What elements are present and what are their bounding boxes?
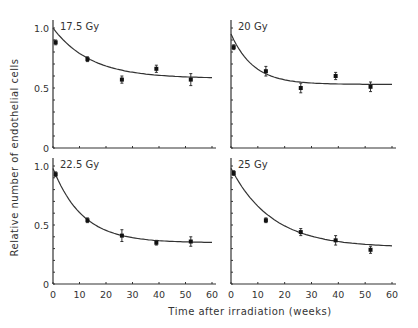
fit-curve	[53, 28, 212, 78]
panel-dose-label: 22.5 Gy	[60, 159, 99, 170]
data-point	[334, 74, 338, 78]
x-tick-label: 10	[73, 289, 85, 300]
panel-22-5-gy: 010203040506000.51.022.5 Gy	[34, 158, 218, 300]
x-tick-label: 60	[386, 289, 398, 300]
data-point	[369, 248, 373, 252]
data-point	[232, 171, 236, 175]
fit-curve	[231, 168, 392, 245]
x-tick-label: 30	[126, 289, 138, 300]
data-point	[334, 238, 338, 242]
panel-dose-label: 20 Gy	[238, 21, 268, 32]
x-tick-label: 60	[206, 289, 218, 300]
fit-curve	[231, 34, 392, 84]
y-tick-label: 1.0	[34, 161, 49, 172]
panel-dose-label: 17.5 Gy	[60, 21, 99, 32]
data-point	[85, 218, 89, 222]
x-tick-label: 30	[305, 289, 317, 300]
data-point	[54, 172, 58, 176]
data-point	[120, 234, 124, 238]
panel-17-5-gy: 00.51.017.5 Gy	[34, 20, 216, 154]
data-point	[120, 78, 124, 82]
data-point	[54, 40, 58, 44]
x-tick-label: 0	[228, 289, 234, 300]
y-tick-label: 1.0	[34, 23, 49, 34]
x-tick-label: 40	[153, 289, 165, 300]
chart-grid: 00.51.017.5 Gy20 Gy010203040506000.51.02…	[0, 0, 418, 328]
y-tick-label: 0	[43, 279, 49, 290]
data-point	[232, 45, 236, 49]
y-tick-label: 0.5	[34, 83, 49, 94]
data-point	[189, 240, 193, 244]
x-tick-label: 40	[332, 289, 344, 300]
panel-dose-label: 25 Gy	[238, 159, 268, 170]
x-tick-label: 50	[359, 289, 371, 300]
fit-curve	[53, 168, 212, 242]
y-tick-label: 0	[43, 143, 49, 154]
data-point	[264, 69, 268, 73]
data-point	[154, 241, 158, 245]
x-tick-label: 20	[279, 289, 291, 300]
x-tick-label: 10	[252, 289, 264, 300]
data-point	[369, 85, 373, 89]
data-point	[189, 78, 193, 82]
y-tick-label: 0.5	[34, 220, 49, 231]
data-point	[299, 230, 303, 234]
x-axis-label: Time after irradiation (weeks)	[130, 306, 370, 317]
panel-25-gy: 010203040506025 Gy	[228, 158, 398, 300]
data-point	[154, 67, 158, 71]
x-tick-label: 0	[50, 289, 56, 300]
x-tick-label: 50	[179, 289, 191, 300]
data-point	[299, 86, 303, 90]
y-axis-label: Relative number of endothelial cells	[9, 58, 20, 258]
x-tick-label: 20	[100, 289, 112, 300]
panel-20-gy: 20 Gy	[231, 20, 396, 148]
data-point	[264, 218, 268, 222]
data-point	[85, 57, 89, 61]
